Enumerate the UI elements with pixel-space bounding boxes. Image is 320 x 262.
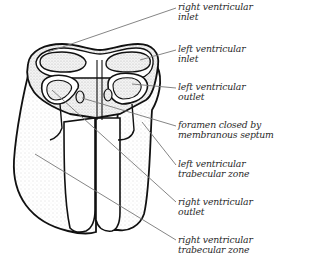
- label-line: inlet: [178, 12, 253, 22]
- label-right-ventricular-outlet: right ventricular outlet: [178, 197, 253, 216]
- label-right-ventricular-trabecular-zone: right ventricular trabecular zone: [178, 235, 253, 254]
- label-line: outlet: [178, 92, 245, 102]
- label-left-ventricular-inlet: left ventricular inlet: [178, 44, 245, 63]
- label-left-ventricular-trabecular-zone: left ventricular trabecular zone: [178, 159, 249, 178]
- label-line: inlet: [178, 54, 245, 64]
- right-ventricular-inlet-shape: [40, 52, 86, 72]
- label-right-ventricular-inlet: right ventricular inlet: [178, 2, 253, 21]
- left-ventricular-inlet-shape: [106, 52, 150, 72]
- label-foramen-closed: foramen closed by membranous septum: [178, 120, 274, 139]
- label-line: outlet: [178, 207, 253, 217]
- label-line: trabecular zone: [178, 169, 249, 179]
- label-line: trabecular zone: [178, 245, 253, 255]
- label-left-ventricular-outlet: left ventricular outlet: [178, 82, 245, 101]
- label-line: membranous septum: [178, 130, 274, 140]
